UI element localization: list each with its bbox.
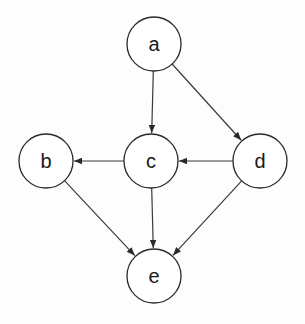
node-e: e [127, 249, 181, 303]
edge-a-to-d [172, 64, 241, 140]
node-label: b [40, 150, 51, 172]
node-a: a [127, 17, 181, 71]
node-label: a [148, 33, 160, 55]
node-d: d [233, 134, 287, 188]
edge-d-to-e [173, 181, 242, 256]
directed-graph: abcde [0, 0, 305, 324]
nodes-group: abcde [19, 17, 287, 303]
node-label: d [254, 150, 265, 172]
node-label: c [146, 150, 156, 172]
edge-b-to-e [64, 181, 134, 256]
node-b: b [19, 134, 73, 188]
node-label: e [148, 265, 159, 287]
edge-a-to-c [152, 71, 154, 133]
edge-c-to-e [152, 188, 154, 248]
node-c: c [124, 134, 178, 188]
